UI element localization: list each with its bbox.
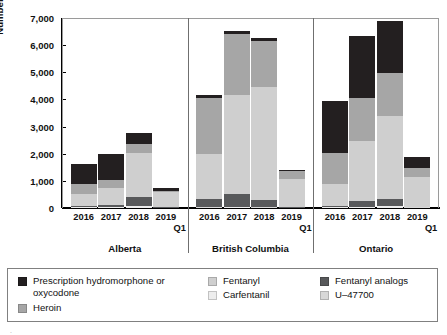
bar-segment-prescription-hydromorphone-or-oxycodone <box>224 31 250 35</box>
panel-title-ontario: Ontario <box>301 243 447 254</box>
bar-segment-heroin <box>153 191 179 192</box>
bar-segment-prescription-hydromorphone-or-oxycodone <box>153 188 179 191</box>
bar-segment-carfentanil <box>224 207 250 208</box>
bar-segment-fentanyl <box>71 194 97 206</box>
bar-segment-prescription-hydromorphone-or-oxycodone <box>196 95 222 99</box>
bar-alberta-2018 <box>126 18 152 208</box>
bar-segment-heroin <box>224 34 250 95</box>
bar-segment-prescription-hydromorphone-or-oxycodone <box>279 170 305 171</box>
bar-segment-fentanyl <box>98 188 124 205</box>
bar-segment-prescription-hydromorphone-or-oxycodone <box>98 154 124 180</box>
legend-label: Carfentanil <box>223 289 269 301</box>
legend-label: Fentanyl <box>223 275 260 287</box>
y-tick-label-0: 0 <box>8 203 54 214</box>
bar-segment-fentanyl <box>349 141 375 201</box>
legend-item-fentanyl-analogs[interactable]: Fentanyl analogs <box>320 275 440 287</box>
legend-item-prescription-hydromorphone-or-oxycodone[interactable]: Prescription hydromorphone or oxycodone <box>18 275 198 298</box>
bar-segment-fentanyl <box>224 95 250 193</box>
bar-segment-fentanyl-analogs <box>349 201 375 206</box>
bar-segment-heroin <box>71 184 97 194</box>
bar-ontario-2017 <box>349 18 375 208</box>
legend-swatch-u47700 <box>320 291 329 300</box>
bar-segment-fentanyl <box>251 87 277 200</box>
page-artifact: . <box>10 327 12 334</box>
bar-segment-fentanyl <box>153 192 179 207</box>
bar-alberta-2017 <box>98 18 124 208</box>
bar-segment-heroin <box>377 73 403 116</box>
legend-swatch-carfentanil <box>208 291 217 300</box>
bar-segment-fentanyl <box>404 177 430 207</box>
legend-item-carfentanil[interactable]: Carfentanil <box>208 289 318 301</box>
bar-segment-fentanyl-analogs <box>196 199 222 208</box>
bar-british-columbia-2017 <box>224 18 250 208</box>
legend-label: U–47700 <box>335 289 374 301</box>
bar-segment-prescription-hydromorphone-or-oxycodone <box>251 38 277 41</box>
bar-segment-heroin <box>349 98 375 141</box>
y-tick-label-1000: 1,000 <box>8 175 54 186</box>
bar-british-columbia-2016 <box>196 18 222 208</box>
bar-alberta-2016 <box>71 18 97 208</box>
bar-segment-heroin <box>279 171 305 179</box>
plot-area <box>62 18 439 208</box>
x-tick-label-2019Q1: 2019Q1 <box>272 212 312 233</box>
y-tick-label-5000: 5,000 <box>8 67 54 78</box>
legend-label: Prescription hydromorphone or oxycodone <box>33 275 165 298</box>
bar-segment-fentanyl <box>126 153 152 198</box>
bar-ontario-2019Q1 <box>404 18 430 208</box>
bar-segment-fentanyl <box>279 179 305 207</box>
bar-segment-prescription-hydromorphone-or-oxycodone <box>349 36 375 98</box>
bar-british-columbia-2018 <box>251 18 277 208</box>
bar-segment-prescription-hydromorphone-or-oxycodone <box>322 101 348 153</box>
bar-segment-fentanyl-analogs <box>377 199 403 206</box>
x-tick-label-2019Q1: 2019Q1 <box>397 212 437 233</box>
bar-segment-carfentanil <box>377 206 403 208</box>
bar-segment-heroin <box>322 153 348 184</box>
y-axis-title: Number of opioids <box>0 0 5 52</box>
bar-segment-carfentanil <box>126 206 152 208</box>
bar-segment-prescription-hydromorphone-or-oxycodone <box>404 157 430 168</box>
y-tick-label-6000: 6,000 <box>8 40 54 51</box>
bar-british-columbia-2019Q1 <box>279 18 305 208</box>
chart-legend: Prescription hydromorphone or oxycodoneH… <box>7 268 438 322</box>
bar-segment-fentanyl-analogs <box>126 197 152 206</box>
bar-segment-heroin <box>98 180 124 188</box>
bar-segment-heroin <box>196 98 222 154</box>
bar-segment-fentanyl-analogs <box>224 194 250 207</box>
chart-figure: Number of opioids 01,0002,0003,0004,0005… <box>0 0 447 335</box>
legend-item-heroin[interactable]: Heroin <box>18 302 198 314</box>
bar-alberta-2019Q1 <box>153 18 179 208</box>
bar-segment-prescription-hydromorphone-or-oxycodone <box>377 21 403 73</box>
legend-swatch-fentanyl <box>208 277 217 286</box>
bar-segment-prescription-hydromorphone-or-oxycodone <box>71 164 97 184</box>
bar-segment-fentanyl-analogs <box>322 206 348 207</box>
legend-swatch-prescription <box>18 277 27 286</box>
legend-swatch-heroin <box>18 304 27 313</box>
bar-segment-fentanyl <box>377 116 403 199</box>
y-tick-label-2000: 2,000 <box>8 148 54 159</box>
bar-ontario-2016 <box>322 18 348 208</box>
legend-swatch-fentanyl-analogs <box>320 277 329 286</box>
legend-label: Heroin <box>33 302 61 314</box>
bar-segment-prescription-hydromorphone-or-oxycodone <box>126 133 152 144</box>
y-tick-label-4000: 4,000 <box>8 94 54 105</box>
legend-item-u-47700[interactable]: U–47700 <box>320 289 440 301</box>
bar-segment-heroin <box>404 168 430 177</box>
bar-segment-carfentanil <box>349 207 375 208</box>
y-tick-label-7000: 7,000 <box>8 13 54 24</box>
bar-segment-heroin <box>126 144 152 153</box>
bar-segment-fentanyl-analogs <box>98 205 124 207</box>
bar-segment-fentanyl <box>322 184 348 206</box>
y-tick-label-3000: 3,000 <box>8 121 54 132</box>
x-tick-label-2019Q1: 2019Q1 <box>146 212 186 233</box>
bar-segment-fentanyl-analogs <box>251 200 277 208</box>
bar-segment-heroin <box>251 41 277 87</box>
legend-item-fentanyl[interactable]: Fentanyl <box>208 275 318 287</box>
legend-label: Fentanyl analogs <box>335 275 408 287</box>
bar-ontario-2018 <box>377 18 403 208</box>
bar-segment-fentanyl <box>196 154 222 199</box>
